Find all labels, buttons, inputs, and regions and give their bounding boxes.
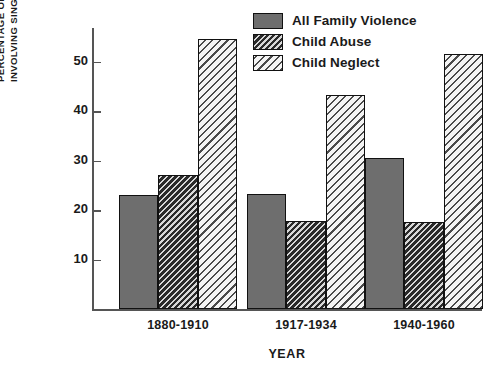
y-tick-label-30: 30 [74,153,88,166]
y-tick-10: 10 [94,260,101,262]
y-tick-label-10: 10 [74,252,88,265]
bar-child-abuse-1880-1910 [158,175,197,309]
x-tick-label-1940-1960: 1940-1960 [393,318,455,332]
y-tick-50: 50 [94,62,101,64]
y-tick-30: 30 [94,161,101,163]
bar-all-family-violence-1940-1960 [365,158,404,309]
legend-label-all-family-violence: All Family Violence [292,14,417,28]
y-axis-title: PERCENTAGE OF INCIDENTS INVOLVING SINGLE… [0,0,20,82]
legend-swatch-all-family-violence [253,13,283,29]
x-tick-label-1880-1910: 1880-1910 [147,318,209,332]
bar-child-abuse-1917-1934 [286,221,325,309]
bar-chart-figure: All Family Violence Child Abuse Child Ne… [0,0,495,370]
bar-child-abuse-1940-1960 [404,222,443,309]
legend-item-all-family-violence: All Family Violence [253,12,417,29]
x-tick-label-1917-1934: 1917-1934 [275,318,337,332]
plot-area: 1020304050 [92,28,482,310]
y-axis-line [92,28,94,310]
x-axis-tick-labels: 1880-19101917-19341940-1960 [92,318,482,334]
y-tick-40: 40 [94,111,101,113]
bar-child-neglect-1940-1960 [444,54,483,309]
bar-all-family-violence-1880-1910 [119,195,158,309]
y-tick-20: 20 [94,210,101,212]
y-tick-label-40: 40 [74,103,88,116]
y-tick-label-50: 50 [74,54,88,67]
bar-child-neglect-1880-1910 [198,39,237,309]
y-tick-label-20: 20 [74,202,88,215]
bar-child-neglect-1917-1934 [326,95,365,309]
bar-all-family-violence-1917-1934 [247,194,286,309]
x-axis-title: YEAR [92,347,482,361]
x-axis-line [92,309,482,311]
